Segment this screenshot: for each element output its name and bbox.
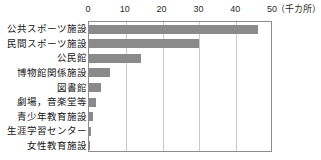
category-label: 青少年教育施設 bbox=[17, 110, 87, 121]
category-label: 公民館 bbox=[57, 52, 87, 63]
x-tick-label: 40 bbox=[230, 4, 240, 14]
category-label: 劇場，音楽堂等 bbox=[17, 96, 87, 107]
x-tick-label: 20 bbox=[157, 4, 167, 14]
category-label: 女性教育施設 bbox=[27, 139, 87, 150]
bar bbox=[89, 127, 91, 136]
bar bbox=[89, 54, 141, 63]
category-label: 図書館 bbox=[57, 81, 87, 92]
x-tick-label: 0 bbox=[85, 4, 90, 14]
category-axis-labels: 公共スポーツ施設民間スポーツ施設公民館博物館関係施設図書館劇場，音楽堂等青少年教… bbox=[0, 21, 88, 152]
category-label: 公共スポーツ施設 bbox=[7, 23, 87, 34]
bar bbox=[89, 39, 199, 48]
x-axis-unit-label: （千カ所） bbox=[276, 4, 321, 14]
bar bbox=[89, 83, 101, 92]
x-tick-label: 30 bbox=[193, 4, 203, 14]
x-axis-labels: 01020304050（千カ所） bbox=[0, 0, 321, 21]
bar bbox=[89, 141, 90, 150]
bar bbox=[89, 112, 93, 121]
gridline bbox=[236, 22, 237, 151]
gridline bbox=[199, 22, 200, 151]
bar-chart: 01020304050（千カ所） 公共スポーツ施設民間スポーツ施設公民館博物館関… bbox=[0, 0, 321, 160]
category-label: 民間スポーツ施設 bbox=[7, 37, 87, 48]
x-tick-label: 10 bbox=[120, 4, 130, 14]
bar bbox=[89, 68, 110, 77]
plot-area bbox=[88, 21, 272, 152]
bar bbox=[89, 98, 96, 107]
category-label: 生涯学習センター bbox=[7, 125, 87, 136]
bar bbox=[89, 25, 258, 34]
category-label: 博物館関係施設 bbox=[17, 66, 87, 77]
